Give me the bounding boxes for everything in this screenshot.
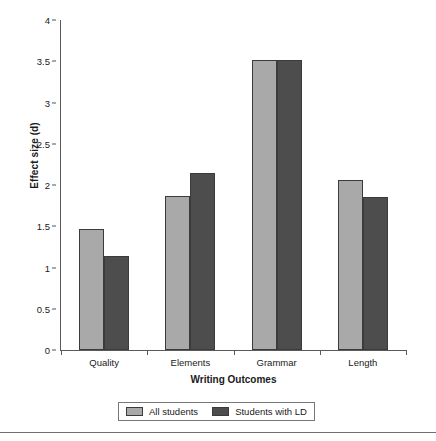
chart-legend: All students Students with LD bbox=[118, 402, 315, 421]
x-axis-tick-mark bbox=[234, 350, 235, 355]
x-axis-category-label: Grammar bbox=[257, 357, 297, 368]
y-axis-tick-mark bbox=[52, 61, 56, 62]
x-axis-category-label: Quality bbox=[89, 357, 119, 368]
y-axis-tick-mark bbox=[52, 267, 56, 268]
bar bbox=[190, 173, 215, 350]
y-axis-tick-mark bbox=[52, 102, 56, 103]
bar bbox=[363, 197, 388, 350]
legend-item-students-with-ld: Students with LD bbox=[212, 406, 307, 417]
y-axis-tick-label: 0.5 bbox=[37, 303, 50, 314]
y-axis-tick-label: 2 bbox=[45, 180, 50, 191]
y-axis-tick-label: 1 bbox=[45, 262, 50, 273]
bar bbox=[252, 60, 277, 350]
bar bbox=[338, 180, 363, 350]
x-axis-tick-mark bbox=[61, 350, 62, 355]
y-axis-tick-mark bbox=[52, 226, 56, 227]
figure: Effect size (d) 00.511.522.533.54 Qualit… bbox=[0, 0, 436, 441]
y-axis-tick-labels: 00.511.522.533.54 bbox=[30, 20, 56, 350]
legend-label-students-with-ld: Students with LD bbox=[235, 406, 307, 417]
x-axis-category-label: Elements bbox=[171, 357, 211, 368]
bar bbox=[104, 256, 129, 350]
legend-swatch-icon-all-students bbox=[126, 407, 143, 416]
legend-label-all-students: All students bbox=[149, 406, 198, 417]
x-axis-title: Writing Outcomes bbox=[61, 374, 406, 385]
y-axis-tick-mark bbox=[52, 20, 56, 21]
bar-group bbox=[320, 20, 406, 350]
x-axis-tick-mark bbox=[320, 350, 321, 355]
y-axis-tick-label: 1.5 bbox=[37, 221, 50, 232]
legend-swatch-icon-students-with-ld bbox=[212, 407, 229, 416]
bar-group bbox=[234, 20, 320, 350]
x-axis-tick-mark bbox=[406, 350, 407, 355]
bar bbox=[165, 196, 190, 350]
x-axis-tick-mark bbox=[147, 350, 148, 355]
y-axis-tick-mark bbox=[52, 350, 56, 351]
bar-group bbox=[61, 20, 147, 350]
y-axis-tick-mark bbox=[52, 185, 56, 186]
bar bbox=[277, 60, 302, 350]
plot-area bbox=[61, 20, 406, 350]
bar-group bbox=[147, 20, 233, 350]
x-axis-category-label: Length bbox=[348, 357, 377, 368]
y-axis-tick-mark bbox=[52, 308, 56, 309]
bar bbox=[79, 229, 104, 350]
y-axis-tick-label: 0 bbox=[45, 345, 50, 356]
y-axis-tick-mark bbox=[52, 143, 56, 144]
y-axis-tick-label: 3.5 bbox=[37, 56, 50, 67]
bar-chart: Effect size (d) 00.511.522.533.54 Qualit… bbox=[0, 0, 436, 441]
y-axis-tick-label: 2.5 bbox=[37, 138, 50, 149]
legend-item-all-students: All students bbox=[126, 406, 198, 417]
y-axis-tick-label: 3 bbox=[45, 97, 50, 108]
page-divider bbox=[0, 432, 436, 433]
y-axis-tick-label: 4 bbox=[45, 15, 50, 26]
